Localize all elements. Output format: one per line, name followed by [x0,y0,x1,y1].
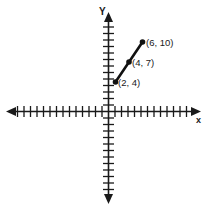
point-label-2-4: (2, 4) [118,78,140,88]
coordinate-axes-graphic [0,0,208,211]
coordinate-plane-figure: Y x (2, 4) (4, 7) (6, 10) [0,0,208,211]
x-axis-label: x [196,116,201,125]
x-axis-left-arrowhead [6,107,16,116]
point-label-4-7: (4, 7) [132,58,154,68]
data-point-4-7 [126,59,132,65]
y-axis-label: Y [99,7,106,17]
y-axis-bottom-arrowhead [104,194,113,204]
data-point-6-10 [140,39,146,45]
x-axis-ticks [18,106,187,117]
point-label-6-10: (6, 10) [146,38,173,48]
